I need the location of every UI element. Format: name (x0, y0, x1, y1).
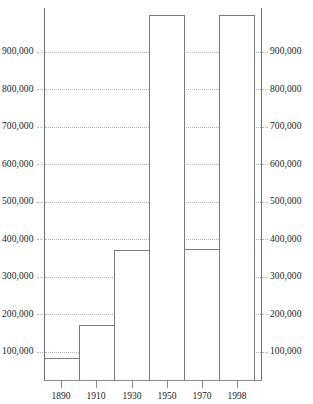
y-axis-left-label-100000: 100,000 (2, 347, 34, 357)
cut-off-top-text (4, 0, 94, 7)
y-axis-left-label-800000: 800,000 (2, 85, 34, 95)
tick-right-900000 (262, 52, 268, 53)
y-axis-right-label-200000: 200,000 (270, 310, 302, 320)
plot-area: 1890 1910 1930 1950 1970 1998 (44, 8, 262, 381)
bar-1910[interactable] (79, 325, 115, 381)
y-axis-right-label-600000: 600,000 (270, 160, 302, 170)
bar-1998[interactable] (219, 15, 255, 381)
bar-1890[interactable] (44, 358, 80, 381)
x-tick-1998 (237, 380, 238, 388)
tick-left-300000 (37, 277, 43, 278)
x-axis-label-1910: 1910 (87, 391, 106, 402)
y-axis-left-label-900000: 900,000 (2, 47, 34, 57)
x-axis-label-1930: 1930 (123, 391, 142, 402)
tick-right-500000 (262, 202, 268, 203)
y-axis-right-label-900000: 900,000 (270, 47, 302, 57)
tick-left-500000 (37, 202, 43, 203)
x-axis-label-1998: 1998 (228, 391, 247, 402)
tick-right-400000 (262, 239, 268, 240)
tick-left-800000 (37, 89, 43, 90)
x-axis-line (44, 380, 262, 381)
bar-1970[interactable] (184, 249, 220, 381)
bar-1930[interactable] (114, 250, 150, 381)
x-axis-label-1970: 1970 (193, 391, 212, 402)
bar-1950[interactable] (149, 15, 185, 381)
tick-left-100000 (37, 352, 43, 353)
x-tick-1930 (132, 380, 133, 388)
bar-group (44, 8, 262, 19)
x-tick-1910 (96, 380, 97, 388)
y-axis-right-label-400000: 400,000 (270, 235, 302, 245)
tick-left-700000 (37, 127, 43, 128)
x-axis-label-1950: 1950 (158, 391, 177, 402)
y-axis-left-label-400000: 400,000 (2, 235, 34, 245)
x-tick-1950 (167, 380, 168, 388)
x-tick-1970 (202, 380, 203, 388)
y-axis-right-label-500000: 500,000 (270, 197, 302, 207)
tick-right-800000 (262, 89, 268, 90)
tick-left-400000 (37, 239, 43, 240)
y-axis-left-label-300000: 300,000 (2, 272, 34, 282)
y-axis-right-label-800000: 800,000 (270, 85, 302, 95)
y-axis-left-line (44, 8, 45, 381)
tick-right-300000 (262, 277, 268, 278)
y-axis-right-line (261, 8, 262, 381)
x-axis-label-1890: 1890 (52, 391, 71, 402)
tick-left-200000 (37, 314, 43, 315)
tick-left-900000 (37, 52, 43, 53)
tick-right-100000 (262, 352, 268, 353)
y-axis-right-label-300000: 300,000 (270, 272, 302, 282)
y-axis-right-label-700000: 700,000 (270, 122, 302, 132)
tick-right-700000 (262, 127, 268, 128)
y-axis-right-label-100000: 100,000 (270, 347, 302, 357)
tick-left-600000 (37, 164, 43, 165)
bar-chart: 1890 1910 1930 1950 1970 1998 900,000 80… (0, 0, 313, 5)
y-axis-left-label-700000: 700,000 (2, 122, 34, 132)
tick-right-200000 (262, 314, 268, 315)
x-tick-1890 (61, 380, 62, 388)
tick-right-600000 (262, 164, 268, 165)
y-axis-left-label-600000: 600,000 (2, 160, 34, 170)
y-axis-left-label-200000: 200,000 (2, 310, 34, 320)
y-axis-left-label-500000: 500,000 (2, 197, 34, 207)
